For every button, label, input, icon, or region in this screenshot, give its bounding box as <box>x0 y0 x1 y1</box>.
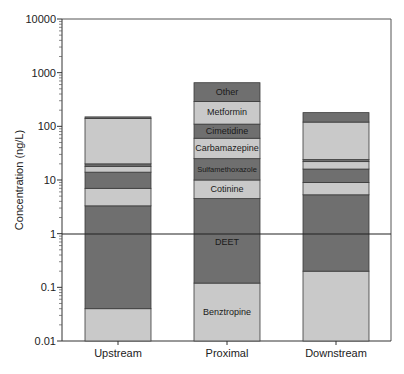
x-label-upstream: Upstream <box>94 347 142 359</box>
segment-metformin <box>303 122 369 160</box>
segment-metformin <box>85 118 151 163</box>
ytick-100: 100 <box>38 120 56 132</box>
segment-other <box>85 117 151 119</box>
y-axis-ticks <box>57 19 62 341</box>
label-carbamazepine: Carbamazepine <box>195 143 259 153</box>
bars <box>85 83 369 341</box>
bar-upstream <box>85 117 151 341</box>
segment-sulfamethoxazole <box>85 172 151 188</box>
label-metformin: Metformin <box>207 107 247 117</box>
label-cimetidine: Cimetidine <box>206 126 249 136</box>
label-benztropine: Benztropine <box>203 307 251 317</box>
segment-carbamazepine <box>85 166 151 172</box>
y-axis-title: Concentration (ng/L) <box>13 130 25 230</box>
segment-other <box>303 113 369 122</box>
segment-carbamazepine <box>303 162 369 169</box>
segment-benztropine <box>85 309 151 341</box>
y-tick-labels: 10000 1000 100 10 1 0.1 0.01 <box>25 13 56 347</box>
label-sulfamethoxazole: Sulfamethoxazole <box>197 165 257 174</box>
ytick-0.1: 0.1 <box>41 281 56 293</box>
bar-proximal <box>194 83 260 341</box>
segment-deet <box>85 206 151 309</box>
ytick-1000: 1000 <box>32 67 56 79</box>
stacked-bar-chart: 10000 1000 100 10 1 0.1 0.01 Concentrati… <box>0 0 404 374</box>
segment-sulfamethoxazole <box>303 169 369 182</box>
label-cotinine: Cotinine <box>210 184 243 194</box>
x-axis: Upstream Proximal Downstream <box>94 341 367 359</box>
x-label-proximal: Proximal <box>206 347 249 359</box>
ytick-0.01: 0.01 <box>35 335 56 347</box>
segment-cotinine <box>303 182 369 194</box>
segment-benztropine <box>303 271 369 341</box>
label-deet: DEET <box>215 237 240 247</box>
label-other: Other <box>216 87 239 97</box>
ytick-10000: 10000 <box>25 13 56 25</box>
segment-cotinine <box>85 188 151 206</box>
segment-deet <box>303 195 369 271</box>
ytick-1: 1 <box>50 228 56 240</box>
ytick-10: 10 <box>44 174 56 186</box>
bar-downstream <box>303 113 369 341</box>
x-label-downstream: Downstream <box>305 347 367 359</box>
